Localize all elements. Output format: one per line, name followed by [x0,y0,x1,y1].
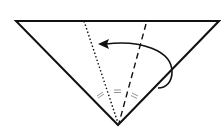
origami-diagram [0,0,221,137]
paper-triangle [16,21,219,125]
